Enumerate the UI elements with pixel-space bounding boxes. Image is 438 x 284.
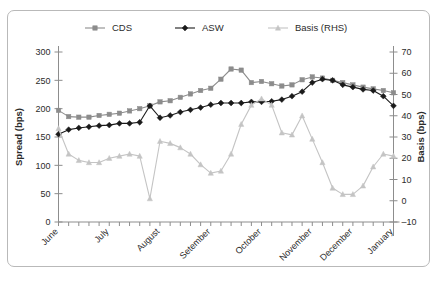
data-point-marker: [320, 160, 325, 165]
x-axis-month-label: Setember: [178, 226, 213, 261]
data-point-marker: [56, 126, 61, 131]
data-point-marker: [137, 119, 143, 125]
data-point-marker: [138, 106, 142, 110]
legend-label: Basis (RHS): [295, 22, 347, 33]
legend-item-cds[interactable]: CDS: [85, 22, 132, 33]
data-point-marker: [229, 67, 233, 71]
data-point-marker: [381, 151, 386, 156]
x-axis-month-label: December: [318, 226, 354, 262]
data-point-marker: [259, 96, 264, 101]
data-point-marker: [87, 115, 91, 119]
data-point-marker: [158, 100, 162, 104]
data-point-marker: [66, 114, 70, 118]
data-point-marker: [177, 109, 183, 115]
x-axis-month-label: August: [135, 226, 162, 253]
data-point-marker: [219, 77, 223, 81]
y2-axis-tick-label: 30: [402, 132, 412, 142]
data-point-marker: [218, 100, 224, 106]
series-cds: [56, 67, 395, 120]
y-axis-tick-label: 200: [35, 104, 50, 114]
data-point-marker: [239, 121, 244, 126]
data-point-marker: [188, 107, 194, 113]
y2-axis-tick-label: –10: [402, 217, 417, 227]
y2-axis-tick-label: 60: [402, 68, 412, 78]
y2-axis-tick-label: 20: [402, 153, 412, 163]
data-point-marker: [96, 123, 102, 129]
data-point-marker: [249, 80, 253, 84]
data-point-marker: [228, 100, 234, 106]
data-point-marker: [238, 100, 244, 106]
data-point-marker: [97, 113, 101, 117]
data-point-marker: [289, 93, 295, 99]
chart-figure: CDSASWBasis (RHS) 050100150200250300–100…: [0, 0, 438, 284]
data-point-marker: [381, 88, 385, 92]
data-point-marker: [107, 112, 111, 116]
legend-label: CDS: [112, 22, 132, 33]
x-axis-month-label: June: [39, 226, 60, 247]
data-point-marker: [360, 183, 365, 188]
data-point-marker: [147, 196, 152, 201]
legend-swatch-marker: [182, 25, 188, 31]
legend-item-asw[interactable]: ASW: [175, 22, 224, 33]
data-point-marker: [310, 75, 314, 79]
series-line: [59, 69, 394, 117]
data-point-marker: [66, 151, 71, 156]
data-point-marker: [300, 113, 305, 118]
data-point-marker: [188, 92, 192, 96]
legend-item-basis-rhs[interactable]: Basis (RHS): [268, 22, 347, 33]
y-axis-tick-label: 250: [35, 76, 50, 86]
data-point-marker: [117, 111, 121, 115]
data-point-marker: [228, 151, 233, 156]
y-axis-tick-label: 100: [35, 161, 50, 171]
data-point-marker: [167, 113, 173, 119]
y2-axis-tick-label: 50: [402, 90, 412, 100]
data-point-marker: [76, 158, 81, 163]
data-point-marker: [391, 91, 395, 95]
y2-axis-title: Basis (bps): [415, 111, 426, 162]
data-point-marker: [157, 138, 162, 143]
data-point-marker: [127, 109, 131, 113]
y2-axis-tick-label: 10: [402, 175, 412, 185]
y-axis-tick-label: 50: [40, 189, 50, 199]
data-point-marker: [259, 79, 263, 83]
data-point-marker: [188, 151, 193, 156]
chart-legend: CDSASWBasis (RHS): [85, 22, 347, 33]
chart-plot: CDSASWBasis (RHS) 050100150200250300–100…: [0, 0, 438, 284]
data-point-marker: [269, 102, 274, 107]
x-axis-month-label: November: [277, 226, 313, 262]
x-axis-month-label: October: [233, 226, 263, 256]
series-asw: [56, 76, 397, 137]
data-point-marker: [209, 86, 213, 90]
legend-label: ASW: [202, 22, 224, 33]
data-point-marker: [56, 108, 60, 112]
data-point-marker: [290, 83, 294, 87]
data-point-marker: [86, 124, 92, 130]
data-point-marker: [168, 99, 172, 103]
data-point-marker: [127, 121, 133, 127]
data-point-marker: [198, 88, 202, 92]
series-basis-rhs: [56, 96, 396, 201]
data-point-marker: [310, 136, 315, 141]
data-point-marker: [279, 130, 284, 135]
x-axis-month-label: July: [92, 226, 111, 245]
data-point-marker: [300, 78, 304, 82]
y-axis-tick-label: 0: [45, 217, 50, 227]
y-axis-title: Spread (bps): [13, 108, 24, 166]
data-point-marker: [106, 122, 112, 128]
x-axis-month-label: January: [365, 226, 395, 256]
y2-axis-tick-label: 0: [402, 196, 407, 206]
data-point-marker: [269, 82, 273, 86]
data-point-marker: [117, 121, 123, 127]
data-point-marker: [66, 127, 72, 133]
data-point-marker: [239, 68, 243, 72]
data-point-marker: [280, 84, 284, 88]
y2-axis-tick-label: 70: [402, 47, 412, 57]
y-axis-tick-label: 150: [35, 132, 50, 142]
data-point-marker: [198, 105, 204, 111]
data-point-marker: [127, 151, 132, 156]
chart-series: [56, 67, 397, 201]
data-point-marker: [279, 97, 285, 103]
data-point-marker: [208, 102, 214, 108]
data-point-marker: [330, 185, 335, 190]
y2-axis-tick-label: 40: [402, 111, 412, 121]
